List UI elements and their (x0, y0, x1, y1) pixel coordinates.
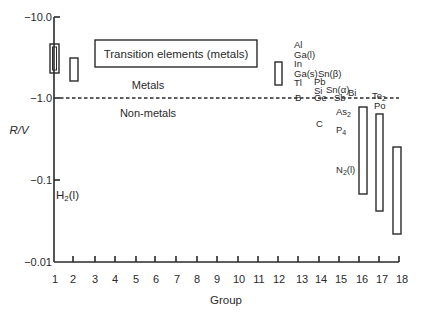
xtick-label: 6 (153, 273, 159, 285)
y-tick-labels: −10.0 −1.0 −0.1 −0.01 (24, 11, 52, 268)
xtick-label: 4 (112, 273, 118, 285)
bar-group-16 (359, 107, 367, 194)
range-bars (50, 44, 401, 234)
xtick-label: 9 (214, 273, 220, 285)
element-label: Ge (314, 92, 327, 103)
transition-elements-box: Transition elements (metals) (95, 40, 257, 67)
xtick-label: 13 (296, 273, 308, 285)
element-label: Tl (294, 77, 302, 88)
xtick-label: 17 (376, 273, 388, 285)
xtick-label: 12 (273, 273, 285, 285)
xtick-label: 5 (133, 273, 139, 285)
element-label: P4 (336, 124, 346, 136)
xtick-label: 1 (52, 273, 58, 285)
xtick-label: 8 (194, 273, 200, 285)
xtick-label: 16 (356, 273, 368, 285)
bar-group-2 (70, 58, 78, 81)
xtick-label: 18 (396, 273, 408, 285)
xtick-label: 14 (315, 273, 327, 285)
xtick-label: 10 (233, 273, 245, 285)
svg-text:Transition elements (metals): Transition elements (metals) (104, 48, 249, 60)
element-label: C (316, 118, 323, 129)
element-labels: Al Ga(l) In Ga(s) Sn(β) Tl Pb Si Sn(α) B… (56, 39, 386, 203)
non-metals-label: Non-metals (120, 107, 177, 119)
ytick-label: −0.1 (30, 174, 52, 186)
chart: −10.0 −1.0 −0.1 −0.01 1 2 3 4 5 6 7 8 9 … (0, 0, 425, 323)
x-axis-label: Group (210, 294, 242, 306)
ytick-label: −0.01 (24, 256, 52, 268)
xtick-label: 11 (253, 273, 264, 285)
element-label: N2(l) (336, 164, 355, 176)
x-tick-labels: 1 2 3 4 5 6 7 8 9 10 11 12 13 14 15 16 1… (52, 273, 408, 285)
xtick-label: 2 (70, 273, 76, 285)
xtick-label: 3 (92, 273, 98, 285)
xtick-label: 15 (335, 273, 347, 285)
ytick-label: −1.0 (30, 92, 52, 104)
element-label: As2 (336, 106, 351, 118)
bar-group-12 (275, 62, 282, 85)
element-label: Bi (348, 87, 356, 98)
x-axis (54, 256, 399, 262)
metals-label: Metals (132, 79, 165, 91)
element-label: Sb (334, 92, 346, 103)
element-label-h2: H2(l) (56, 189, 79, 203)
xtick-label: 7 (174, 273, 180, 285)
bar-group-18 (393, 147, 401, 234)
element-label: Po (374, 100, 386, 111)
ytick-label: −10.0 (24, 11, 52, 23)
element-label: B (295, 92, 301, 103)
bar-group-17 (376, 114, 383, 211)
y-axis-label: R/V (9, 124, 30, 136)
